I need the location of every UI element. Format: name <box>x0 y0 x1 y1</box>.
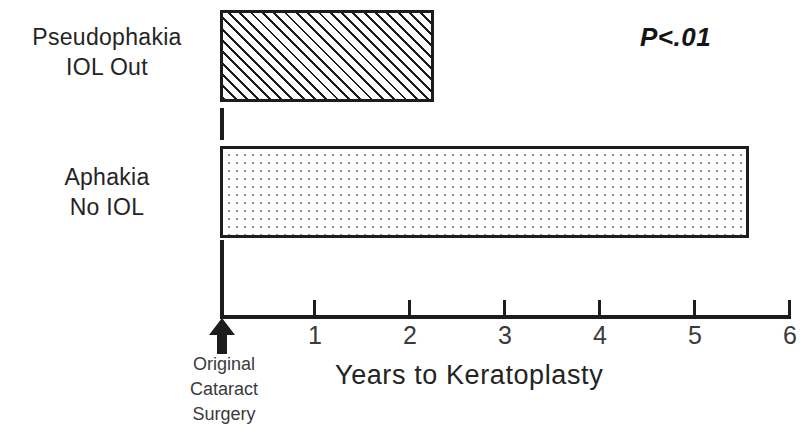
x-axis-tick-3 <box>503 300 506 317</box>
x-axis-tick-label-3: 3 <box>485 320 525 350</box>
origin-caption-line2: Cataract <box>150 377 298 402</box>
origin-marker-caption: Original Cataract Surgery <box>150 352 298 427</box>
bar-pseudophakia-iol-out <box>220 10 434 102</box>
category-label-line1: Pseudophakia <box>32 24 181 50</box>
origin-caption-line1: Original <box>150 352 298 377</box>
x-axis-tick-1 <box>313 300 316 317</box>
category-label-pseudophakia: Pseudophakia IOL Out <box>2 22 212 82</box>
bar-chart-figure: Pseudophakia IOL Out Aphakia No IOL 1 2 … <box>0 0 810 439</box>
x-axis-tick-label-1: 1 <box>295 320 335 350</box>
category-label-line2: IOL Out <box>2 52 212 82</box>
x-axis-tick-label-6: 6 <box>770 320 810 350</box>
x-axis-tick-6 <box>788 300 791 317</box>
category-label-line2: No IOL <box>2 192 212 222</box>
category-label-aphakia: Aphakia No IOL <box>2 162 212 222</box>
x-axis-tick-label-2: 2 <box>390 320 430 350</box>
bar-aphakia-no-iol <box>220 146 749 238</box>
category-label-line1: Aphakia <box>64 164 149 190</box>
p-value-annotation: P<.01 <box>640 22 711 53</box>
origin-caption-line3: Surgery <box>150 402 298 427</box>
origin-arrow-icon <box>208 318 238 354</box>
x-axis-tick-label-5: 5 <box>675 320 715 350</box>
x-axis-tick-0 <box>220 298 224 317</box>
y-axis-segment-upper <box>220 108 224 140</box>
x-axis-tick-4 <box>598 300 601 317</box>
x-axis-title: Years to Keratoplasty <box>335 358 603 392</box>
x-axis-tick-5 <box>693 300 696 317</box>
x-axis-tick-2 <box>408 300 411 317</box>
x-axis-tick-label-4: 4 <box>580 320 620 350</box>
